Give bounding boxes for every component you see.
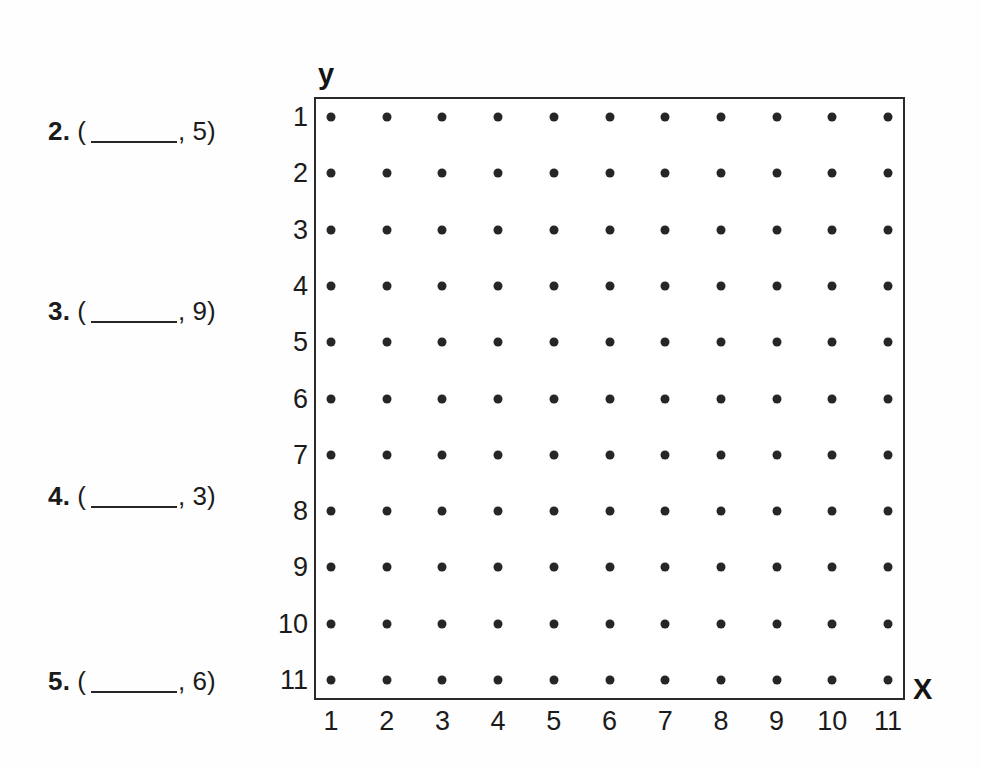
grid-point[interactable] [605, 113, 614, 122]
grid-point[interactable] [549, 281, 558, 290]
grid-point[interactable] [605, 338, 614, 347]
grid-point[interactable] [494, 281, 503, 290]
grid-point[interactable] [828, 113, 837, 122]
grid-point[interactable] [605, 281, 614, 290]
grid-point[interactable] [438, 676, 447, 685]
grid-point[interactable] [438, 450, 447, 459]
grid-point[interactable] [661, 619, 670, 628]
grid-point[interactable] [494, 169, 503, 178]
grid-point[interactable] [438, 113, 447, 122]
grid-point[interactable] [549, 113, 558, 122]
grid-point[interactable] [716, 563, 725, 572]
grid-point[interactable] [549, 450, 558, 459]
grid-point[interactable] [661, 394, 670, 403]
grid-point[interactable] [772, 338, 781, 347]
grid-point[interactable] [828, 281, 837, 290]
grid-point[interactable] [716, 225, 725, 234]
grid-point[interactable] [661, 225, 670, 234]
grid-point[interactable] [438, 563, 447, 572]
grid-point[interactable] [382, 225, 391, 234]
grid-point[interactable] [382, 563, 391, 572]
grid-point[interactable] [884, 394, 893, 403]
grid-point[interactable] [772, 169, 781, 178]
grid-point[interactable] [494, 450, 503, 459]
grid-point[interactable] [549, 619, 558, 628]
grid-point[interactable] [327, 507, 336, 516]
grid-point[interactable] [884, 338, 893, 347]
grid-point[interactable] [327, 450, 336, 459]
grid-point[interactable] [382, 394, 391, 403]
grid-point[interactable] [327, 676, 336, 685]
x-value-blank[interactable] [91, 506, 177, 508]
grid-point[interactable] [884, 676, 893, 685]
grid-point[interactable] [494, 563, 503, 572]
grid-point[interactable] [884, 563, 893, 572]
grid-point[interactable] [884, 507, 893, 516]
grid-point[interactable] [549, 225, 558, 234]
grid-point[interactable] [494, 676, 503, 685]
grid-point[interactable] [828, 619, 837, 628]
grid-point[interactable] [549, 507, 558, 516]
grid-point[interactable] [605, 676, 614, 685]
grid-point[interactable] [884, 450, 893, 459]
grid-point[interactable] [605, 450, 614, 459]
grid-point[interactable] [772, 281, 781, 290]
grid-point[interactable] [828, 507, 837, 516]
grid-point[interactable] [605, 169, 614, 178]
grid-point[interactable] [438, 281, 447, 290]
x-value-blank[interactable] [91, 321, 177, 323]
grid-point[interactable] [772, 394, 781, 403]
grid-point[interactable] [828, 394, 837, 403]
grid-point[interactable] [716, 619, 725, 628]
grid-point[interactable] [327, 225, 336, 234]
grid-point[interactable] [494, 338, 503, 347]
grid-point[interactable] [716, 281, 725, 290]
grid-point[interactable] [716, 450, 725, 459]
grid-point[interactable] [549, 394, 558, 403]
grid-point[interactable] [828, 169, 837, 178]
grid-point[interactable] [382, 450, 391, 459]
grid-point[interactable] [605, 394, 614, 403]
grid-point[interactable] [884, 169, 893, 178]
grid-point[interactable] [828, 450, 837, 459]
grid-point[interactable] [494, 619, 503, 628]
grid-point[interactable] [716, 676, 725, 685]
grid-point[interactable] [884, 281, 893, 290]
grid-point[interactable] [605, 563, 614, 572]
grid-point[interactable] [327, 113, 336, 122]
grid-point[interactable] [772, 450, 781, 459]
grid-point[interactable] [772, 619, 781, 628]
grid-point[interactable] [438, 225, 447, 234]
grid-point[interactable] [494, 113, 503, 122]
grid-point[interactable] [772, 676, 781, 685]
grid-point[interactable] [716, 169, 725, 178]
grid-point[interactable] [772, 563, 781, 572]
grid-point[interactable] [327, 338, 336, 347]
grid-point[interactable] [327, 169, 336, 178]
grid-point[interactable] [716, 507, 725, 516]
grid-point[interactable] [494, 507, 503, 516]
grid-point[interactable] [828, 338, 837, 347]
grid-point[interactable] [327, 563, 336, 572]
grid-point[interactable] [327, 281, 336, 290]
grid-point[interactable] [438, 619, 447, 628]
grid-point[interactable] [549, 563, 558, 572]
grid-point[interactable] [438, 338, 447, 347]
grid-point[interactable] [884, 619, 893, 628]
grid-point[interactable] [549, 169, 558, 178]
grid-point[interactable] [494, 225, 503, 234]
grid-point[interactable] [605, 619, 614, 628]
grid-point[interactable] [327, 394, 336, 403]
grid-point[interactable] [884, 113, 893, 122]
grid-point[interactable] [828, 563, 837, 572]
grid-point[interactable] [382, 676, 391, 685]
grid-point[interactable] [382, 113, 391, 122]
grid-point[interactable] [661, 281, 670, 290]
grid-point[interactable] [828, 676, 837, 685]
grid-point[interactable] [661, 338, 670, 347]
grid-point[interactable] [605, 225, 614, 234]
grid-point[interactable] [716, 113, 725, 122]
x-value-blank[interactable] [91, 141, 177, 143]
grid-point[interactable] [661, 169, 670, 178]
grid-point[interactable] [382, 507, 391, 516]
